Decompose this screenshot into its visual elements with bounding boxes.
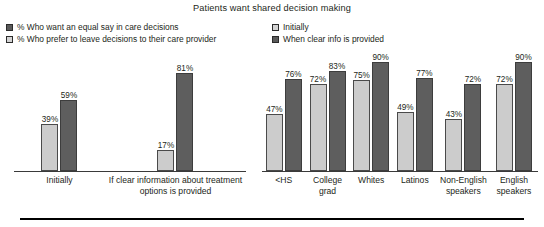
category-label: <HS: [262, 175, 306, 196]
x-axis-line: [262, 171, 538, 172]
legend-by-subgroup: Initially When clear info is provided: [272, 22, 384, 44]
legend-label: % Who prefer to leave decisions to their…: [17, 34, 216, 44]
bar[interactable]: 72%: [464, 84, 481, 171]
legend-item: % Who prefer to leave decisions to their…: [6, 34, 216, 44]
category-label: Whites: [349, 175, 393, 196]
bar[interactable]: 72%: [496, 84, 513, 171]
bar-groups: 47%76%72%83%75%90%49%77%43%72%72%90%: [262, 56, 538, 171]
bar-group: 75%90%: [349, 56, 393, 171]
bar-value-label: 39%: [42, 115, 58, 124]
bar[interactable]: 59%: [60, 100, 77, 171]
bottom-divider: [20, 218, 524, 220]
bar-wrap: 17%: [157, 56, 174, 171]
bar-value-label: 47%: [266, 105, 282, 114]
bar-wrap: 72%: [464, 56, 481, 171]
category-label: Non-English speakers: [437, 175, 490, 196]
bar-group: 72%90%: [490, 56, 538, 171]
bar[interactable]: 49%: [397, 112, 414, 171]
bar-wrap: 72%: [310, 56, 327, 171]
bar-wrap: 81%: [176, 56, 193, 171]
category-label: Initially: [14, 175, 105, 196]
bar-wrap: 43%: [445, 56, 462, 171]
category-label: Latinos: [393, 175, 437, 196]
x-axis-line: [14, 171, 246, 172]
chart-panel-by-subgroup: 47%76%72%83%75%90%49%77%43%72%72%90% <HS…: [262, 56, 538, 196]
bar-value-label: 49%: [397, 103, 413, 112]
bar-value-label: 90%: [372, 53, 388, 62]
bar[interactable]: 81%: [176, 73, 193, 171]
bar-wrap: 83%: [329, 56, 346, 171]
category-label: English speakers: [490, 175, 538, 196]
chart-title: Patients want shared decision making: [0, 3, 544, 13]
bar-group: 49%77%: [393, 56, 437, 171]
bar-wrap: 49%: [397, 56, 414, 171]
category-labels: <HSCollege gradWhitesLatinosNon-English …: [262, 175, 538, 196]
bar-value-label: 72%: [465, 75, 481, 84]
bar-group: 39%59%: [14, 56, 105, 171]
bar[interactable]: 90%: [372, 62, 389, 171]
bar-value-label: 17%: [158, 141, 174, 150]
bar-wrap: 39%: [41, 56, 58, 171]
bar-group: 17%81%: [105, 56, 246, 171]
legend-item: When clear info is provided: [272, 34, 384, 44]
legend-swatch-light-icon: [272, 24, 279, 31]
bar[interactable]: 90%: [515, 62, 532, 171]
legend-label: Initially: [283, 22, 309, 32]
legend-label: % Who want an equal say in care decision…: [17, 22, 179, 32]
bar-value-label: 72%: [496, 75, 512, 84]
bar-wrap: 76%: [285, 56, 302, 171]
bar-value-label: 43%: [446, 110, 462, 119]
legend-swatch-dark-icon: [6, 24, 13, 31]
bar[interactable]: 72%: [310, 84, 327, 171]
bar-value-label: 59%: [61, 91, 77, 100]
bar[interactable]: 43%: [445, 119, 462, 171]
category-label: If clear information about treatment opt…: [105, 175, 246, 196]
bar-wrap: 47%: [266, 56, 283, 171]
bar-wrap: 59%: [60, 56, 77, 171]
bar[interactable]: 47%: [266, 114, 283, 171]
bar-value-label: 72%: [310, 75, 326, 84]
plot-area-overall: 39%59%17%81%: [14, 56, 246, 172]
chart-panel-overall: 39%59%17%81% InitiallyIf clear informati…: [14, 56, 246, 196]
legend-swatch-dark-icon: [272, 36, 279, 43]
legend-label: When clear info is provided: [283, 34, 384, 44]
bar[interactable]: 75%: [353, 80, 370, 171]
bar[interactable]: 83%: [329, 71, 346, 171]
bar-wrap: 72%: [496, 56, 513, 171]
bar[interactable]: 17%: [157, 150, 174, 171]
legend-swatch-light-icon: [6, 36, 13, 43]
bar-wrap: 90%: [372, 56, 389, 171]
category-label: College grad: [306, 175, 350, 196]
bar[interactable]: 76%: [285, 79, 302, 171]
bar[interactable]: 77%: [416, 78, 433, 171]
bar-groups: 39%59%17%81%: [14, 56, 246, 171]
bar-value-label: 90%: [515, 53, 531, 62]
bar-value-label: 81%: [177, 64, 193, 73]
plot-area-by-subgroup: 47%76%72%83%75%90%49%77%43%72%72%90%: [262, 56, 538, 172]
bar[interactable]: 39%: [41, 124, 58, 171]
legend-item: Initially: [272, 22, 384, 32]
bar-value-label: 76%: [285, 70, 301, 79]
category-labels: InitiallyIf clear information about trea…: [14, 175, 246, 196]
bar-value-label: 75%: [353, 71, 369, 80]
bar-wrap: 90%: [515, 56, 532, 171]
legend-item: % Who want an equal say in care decision…: [6, 22, 216, 32]
bar-value-label: 77%: [416, 69, 432, 78]
bar-group: 47%76%: [262, 56, 306, 171]
bar-group: 72%83%: [306, 56, 350, 171]
bar-group: 43%72%: [437, 56, 490, 171]
bar-wrap: 77%: [416, 56, 433, 171]
bar-wrap: 75%: [353, 56, 370, 171]
legend-overall: % Who want an equal say in care decision…: [6, 22, 216, 44]
bar-value-label: 83%: [329, 62, 345, 71]
